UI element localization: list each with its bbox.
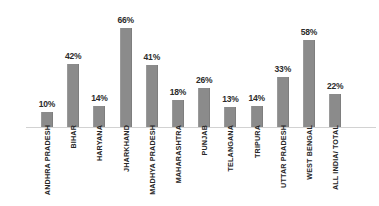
bar-value-label: 13% (217, 94, 243, 104)
x-axis-label: MAHARASHTRA (174, 125, 183, 183)
bar[interactable] (172, 100, 184, 127)
bar-group: 58% (296, 6, 322, 127)
bar-group: 14% (86, 6, 112, 127)
x-axis-label: ALL INDIA/ TOTAL (331, 125, 340, 190)
bar[interactable] (146, 65, 158, 127)
bar-value-label: 22% (322, 81, 348, 91)
bar-value-label: 41% (139, 52, 165, 62)
bar-group: 26% (191, 6, 217, 127)
plot-area: 10%42%14%66%41%18%26%13%14%33%58%22% (26, 6, 371, 121)
bar-value-label: 18% (165, 87, 191, 97)
bar[interactable] (251, 106, 263, 127)
x-axis-label-slot: MADHYA PRADESH (139, 125, 165, 205)
x-axis-label: JHARKHAND (121, 125, 130, 172)
bar-value-label: 42% (60, 51, 86, 61)
x-axis-label: MADHYA PRADESH (147, 125, 156, 195)
bar-group: 66% (113, 6, 139, 127)
bar-value-label: 66% (113, 15, 139, 25)
x-axis-label-slot: TELANGANA (217, 125, 243, 205)
bar-group: 14% (244, 6, 270, 127)
bar-value-label: 26% (191, 75, 217, 85)
x-axis-label: TRIPURA (252, 125, 261, 158)
bar[interactable] (67, 64, 79, 127)
x-axis-labels: ANDHRA PRADESHBIHARHARYANAJHARKHANDMADHY… (26, 125, 371, 205)
x-axis-label-slot: BIHAR (60, 125, 86, 205)
bar-group: 18% (165, 6, 191, 127)
x-axis-label: HARYANA (95, 125, 104, 161)
x-axis-label-slot: UTTAR PRADESH (270, 125, 296, 205)
x-axis-label-slot: WEST BENGAL (296, 125, 322, 205)
bar[interactable] (93, 106, 105, 127)
x-axis-label-slot: ANDHRA PRADESH (34, 125, 60, 205)
x-axis-label: PUNJAB (200, 125, 209, 155)
bar-value-label: 10% (34, 99, 60, 109)
x-axis-label: WEST BENGAL (305, 125, 314, 180)
bar-value-label: 14% (244, 93, 270, 103)
x-axis-label-slot: ALL INDIA/ TOTAL (322, 125, 348, 205)
bar[interactable] (198, 88, 210, 127)
bar-group: 42% (60, 6, 86, 127)
bar-chart: 10%42%14%66%41%18%26%13%14%33%58%22% AND… (0, 0, 379, 206)
x-axis-label: TELANGANA (226, 125, 235, 171)
x-axis-label-slot: HARYANA (86, 125, 112, 205)
x-axis-label: BIHAR (69, 125, 78, 149)
x-axis-label-slot: JHARKHAND (113, 125, 139, 205)
bar-group: 10% (34, 6, 60, 127)
x-axis-label-slot: PUNJAB (191, 125, 217, 205)
bar[interactable] (277, 77, 289, 127)
bar[interactable] (329, 94, 341, 127)
x-axis-label-slot: MAHARASHTRA (165, 125, 191, 205)
bar-group: 13% (217, 6, 243, 127)
bar-group: 33% (270, 6, 296, 127)
bar-value-label: 14% (86, 93, 112, 103)
bar[interactable] (120, 28, 132, 127)
x-axis-label: UTTAR PRADESH (278, 125, 287, 188)
bar-group: 22% (322, 6, 348, 127)
x-axis-label: ANDHRA PRADESH (43, 125, 52, 195)
bar[interactable] (224, 107, 236, 127)
x-axis-label-slot: TRIPURA (244, 125, 270, 205)
bar-group: 41% (139, 6, 165, 127)
bar-value-label: 58% (296, 27, 322, 37)
bar[interactable] (303, 40, 315, 127)
bar-value-label: 33% (270, 64, 296, 74)
